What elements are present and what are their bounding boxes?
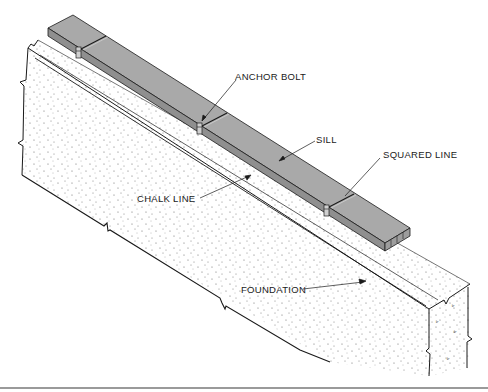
svg-text:▹: ▹ (452, 302, 455, 308)
svg-text:▹: ▹ (447, 355, 450, 361)
bottom-rule (0, 387, 488, 389)
label-sill: SILL (316, 134, 337, 145)
svg-text:▹: ▹ (454, 328, 457, 334)
anchor-bolt-3 (324, 205, 329, 216)
label-anchor-bolt: ANCHOR BOLT (235, 71, 306, 82)
anchor-bolt-1 (76, 47, 81, 58)
label-squared-line: SQUARED LINE (383, 149, 457, 160)
label-chalk-line: CHALK LINE (137, 193, 195, 204)
label-foundation: FOUNDATION (241, 284, 306, 295)
sill-foundation-diagram: ▹ ▹ ▹ ▹ (0, 0, 488, 392)
anchor-bolt-2 (197, 123, 202, 134)
svg-text:▹: ▹ (436, 318, 439, 324)
